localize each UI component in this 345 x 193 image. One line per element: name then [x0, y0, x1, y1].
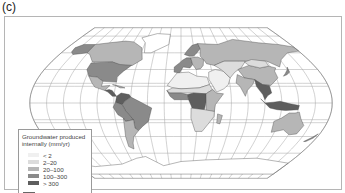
region-central-africa [188, 93, 207, 110]
legend-label: > 300 [43, 180, 59, 187]
region-north-africa [167, 72, 209, 89]
legend-item: 2–20 [22, 159, 88, 166]
legend-item: > 300 [22, 180, 88, 187]
region-greenland [142, 34, 171, 53]
legend-label: 100–300 [43, 173, 67, 180]
legend-swatch [28, 167, 39, 171]
legend-label: < 2 [43, 152, 52, 159]
legend-swatch [28, 160, 39, 164]
legend-swatch [28, 174, 39, 178]
legend-label: No data [39, 191, 61, 193]
region-eastern-europe [191, 57, 204, 70]
region-indonesia [261, 99, 300, 111]
region-new-zealand [304, 134, 319, 142]
panel-label: (c) [2, 0, 16, 14]
region-southern-africa [191, 108, 215, 131]
region-east-africa [206, 90, 224, 112]
map-legend: Groundwater produced internally (mm/yr) … [18, 129, 92, 193]
legend-swatch-no-data [23, 192, 35, 193]
legend-item: 20–100 [22, 166, 88, 173]
region-australia [271, 112, 304, 135]
region-canada [87, 41, 142, 65]
region-scandinavia [184, 44, 200, 57]
legend-label: 20–100 [43, 166, 64, 173]
region-western-europe [174, 58, 193, 73]
map-frame: Groundwater produced internally (mm/yr) … [4, 16, 342, 190]
legend-swatch [28, 181, 39, 185]
legend-item-no-data: No data [22, 191, 88, 193]
legend-item: < 2 [22, 152, 88, 159]
legend-label: 2–20 [43, 159, 57, 166]
legend-swatch [28, 153, 39, 157]
legend-item: 100–300 [22, 173, 88, 180]
region-madagascar [217, 114, 223, 124]
legend-title: Groundwater produced internally (mm/yr) [22, 133, 88, 148]
